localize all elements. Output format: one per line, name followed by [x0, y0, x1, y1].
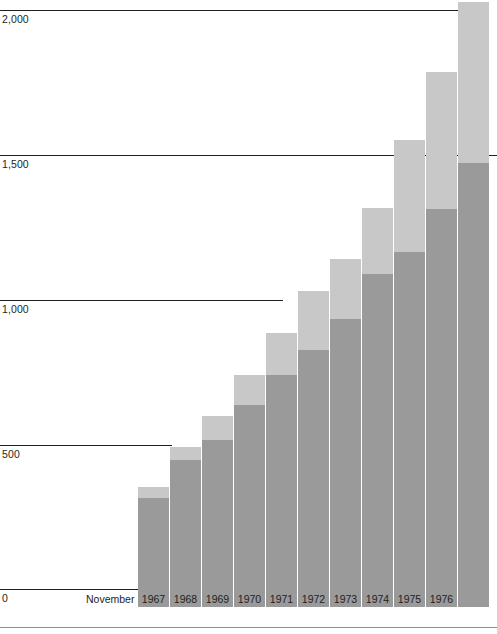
bar-segment-upper: [458, 2, 489, 163]
ytick-label-1000: 1,000: [2, 304, 29, 315]
xtick-label-1974: 1974: [362, 593, 393, 605]
bar-1975: [426, 72, 457, 607]
bar-segment-lower: [362, 274, 393, 607]
bar-1967: [170, 447, 201, 607]
bar-segment-lower: [458, 163, 489, 607]
bar-segment-upper: [426, 72, 457, 209]
bar-1970: [266, 333, 297, 607]
bar-segment-lower: [298, 350, 329, 607]
bar-1971: [298, 291, 329, 607]
bar-segment-lower: [394, 252, 425, 607]
ytick-label-2000: 2,000: [2, 14, 29, 25]
xtick-label-1970: 1970: [234, 593, 265, 605]
bar-segment-upper: [266, 333, 297, 375]
bar-segment-lower: [330, 319, 361, 607]
bar-segment-upper: [170, 447, 201, 460]
xtick-label-1976: 1976: [426, 593, 457, 605]
gridline-zero: [0, 589, 139, 590]
footer-divider: [0, 627, 497, 628]
bar-segment-upper: [330, 259, 361, 319]
xtick-label-1973: 1973: [330, 593, 361, 605]
bar-segment-lower: [170, 460, 201, 607]
xtick-label-1967: 1967: [138, 593, 169, 605]
xtick-label-1971: 1971: [266, 593, 297, 605]
bar-segment-lower: [266, 375, 297, 607]
ytick-label-0: 0: [2, 593, 8, 604]
xtick-label-1972: 1972: [298, 593, 329, 605]
bar-1972: [330, 259, 361, 607]
gridline-500: [0, 445, 172, 446]
bar-segment-upper: [202, 416, 233, 440]
plot-area: 2,000 1,500 1,000 500 0: [0, 0, 497, 634]
xtick-label-november: November: [86, 593, 138, 605]
gridline-1000: [0, 300, 283, 301]
bar-segment-upper: [138, 487, 169, 498]
bar-november: [138, 487, 169, 607]
bar-segment-upper: [394, 140, 425, 252]
bar-segment-lower: [426, 209, 457, 607]
bar-1973: [362, 208, 393, 607]
bar-1974: [394, 140, 425, 607]
bar-chart: 2,000 1,500 1,000 500 0: [0, 0, 497, 634]
bar-segment-upper: [298, 291, 329, 350]
bar-segment-lower: [234, 405, 265, 607]
xtick-label-1968: 1968: [170, 593, 201, 605]
ytick-label-1500: 1,500: [2, 159, 29, 170]
ytick-label-500: 500: [2, 449, 20, 460]
bar-segment-lower: [138, 498, 169, 607]
bar-1968: [202, 416, 233, 607]
bar-segment-lower: [202, 440, 233, 607]
bar-1976: [458, 2, 489, 607]
xtick-label-1975: 1975: [394, 593, 425, 605]
bar-segment-upper: [362, 208, 393, 274]
xtick-label-1969: 1969: [202, 593, 233, 605]
gridline-2000: [0, 10, 475, 11]
bar-1969: [234, 375, 265, 607]
bar-segment-upper: [234, 375, 265, 405]
